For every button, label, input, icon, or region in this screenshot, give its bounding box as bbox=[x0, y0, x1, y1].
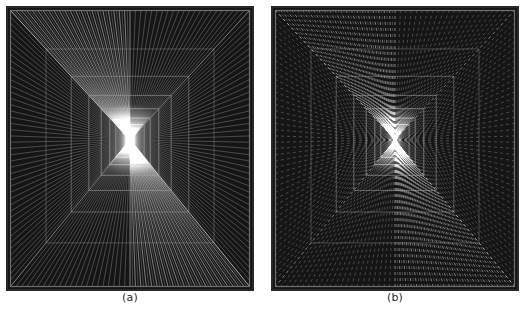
panel-b-caption: (b) bbox=[271, 291, 519, 305]
perspective-line-pattern-b bbox=[271, 6, 519, 291]
panel-b-container bbox=[271, 6, 519, 291]
panel-a-caption: (a) bbox=[6, 291, 254, 305]
figure-container: (a) (b) bbox=[0, 0, 527, 323]
perspective-line-pattern-a bbox=[6, 6, 254, 291]
panel-a-container bbox=[6, 6, 254, 291]
